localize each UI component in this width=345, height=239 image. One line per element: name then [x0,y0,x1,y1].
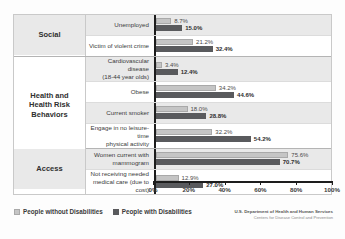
row-plot: 21.2%32.4% [154,36,331,56]
row-plot: 34.2%44.6% [154,82,331,102]
bar-dark [156,92,234,98]
bar-value-label: 32.2% [215,129,232,135]
x-axis-tick [332,181,333,185]
attribution: U.S. Department of Health and Human Serv… [234,209,333,220]
bar-light [156,18,171,24]
bar-dark [156,159,280,165]
bar-light [156,129,212,135]
bar-value-label: 44.6% [237,92,254,98]
chart-row: SocialUnemployed8.7%15.0% [14,15,331,35]
group-label-line: Health Risk [29,100,70,109]
x-axis-tick-label: 40% [218,186,230,193]
row-label: Obese [86,82,154,102]
row-label-line: physical activity [86,140,149,148]
bar-value-label: 70.7% [283,159,300,165]
x-axis-tick [225,181,226,185]
group-label-access: Access [14,149,86,189]
attribution-line-2: Centers for Disease Control and Preventi… [234,215,333,221]
row-label: Cardiovascular disease(18-44 year olds) [86,57,154,81]
x-axis-tick-label: 80% [290,186,302,193]
bar-value-label: 75.6% [291,152,308,158]
group-label-line: Behaviors [31,110,67,119]
bar-value-label: 21.2% [196,39,213,45]
bar-dark [156,136,251,142]
row-label-line: (18-44 year olds) [86,73,149,81]
legend-swatch-dark [113,209,119,215]
group-label-line: Access [36,164,62,173]
group-label-line: Social [38,30,60,39]
legend-label: People without Disabilities [23,208,103,215]
row-label-line: Cardiovascular disease [86,57,149,73]
bar-value-label: 3.4% [165,62,179,68]
bar-value-label: 15.0% [185,25,202,31]
bar-value-label: 12.4% [181,69,198,75]
bar-dark [156,46,213,52]
x-axis-tick [189,181,190,185]
row-label: Engage in no leisure-timephysical activi… [86,124,154,148]
bar-value-label: 54.2% [254,136,271,142]
row-label-line: Obese [131,88,149,96]
x-axis-line [153,181,332,183]
chart-plot-area: SocialUnemployed8.7%15.0%Victim of viole… [13,14,332,195]
row-label: Unemployed [86,15,154,35]
bar-light [156,39,193,45]
row-plot: 8.7%15.0% [154,15,331,35]
row-label-line: Unemployed [114,21,149,29]
row-label: Not receiving neededmedical care (due to… [86,170,154,194]
legend-item[interactable]: People with Disabilities [113,208,192,215]
x-axis-tick-label: 20% [183,186,195,193]
row-plot: 18.0%28.8% [154,103,331,123]
bar-light [156,85,216,91]
x-axis-tick-label: 100% [324,186,340,193]
bar-value-label: 18.0% [191,106,208,112]
row-label: Current smoker [86,103,154,123]
bar-light [156,106,188,112]
group-label-line: Health and [30,91,68,100]
bar-dark [156,69,178,75]
row-label-line: Current smoker [106,109,149,117]
x-axis: 0%20%40%60%80%100% [153,181,332,197]
chart-legend: People without DisabilitiesPeople with D… [14,208,192,215]
bar-value-label: 32.4% [216,46,233,52]
x-axis-tick [260,181,261,185]
x-axis-tick [296,181,297,185]
bar-value-label: 28.8% [209,113,226,119]
row-label: Women current withmammogram [86,149,154,169]
chart-rows: SocialUnemployed8.7%15.0%Victim of viole… [14,15,331,194]
legend-label: People with Disabilities [122,208,192,215]
row-label-line: Not receiving needed [86,170,149,178]
legend-swatch-light [14,209,20,215]
row-label-line: Engage in no leisure-time [86,124,149,140]
row-label-line: mammogram [94,159,149,167]
row-plot: 3.4%12.4% [154,57,331,81]
bar-value-label: 34.2% [219,85,236,91]
x-axis-tick-label: 0% [149,186,158,193]
x-axis-tick [153,181,154,185]
row-label-line: medical care (due to cost) [86,178,149,194]
x-axis-tick-label: 60% [254,186,266,193]
legend-item[interactable]: People without Disabilities [14,208,103,215]
bar-dark [156,25,182,31]
bar-value-label: 8.7% [174,18,188,24]
row-plot: 32.2%54.2% [154,124,331,148]
group-label-health-and-health-risk-behaviors: Health andHealth RiskBehaviors [14,57,86,154]
bar-dark [156,113,206,119]
bar-light [156,62,162,68]
chart-row: AccessWomen current withmammogram75.6%70… [14,148,331,169]
chart-row: Health andHealth RiskBehaviorsCardiovasc… [14,56,331,81]
row-label-line: Women current with [94,151,149,159]
row-label: Victim of violent crime [86,36,154,56]
group-label-social: Social [14,15,86,55]
row-label-line: Victim of violent crime [89,42,149,50]
row-plot: 75.6%70.7% [154,149,331,169]
bar-light [156,152,288,158]
chart-figure: SocialUnemployed8.7%15.0%Victim of viole… [0,0,345,239]
